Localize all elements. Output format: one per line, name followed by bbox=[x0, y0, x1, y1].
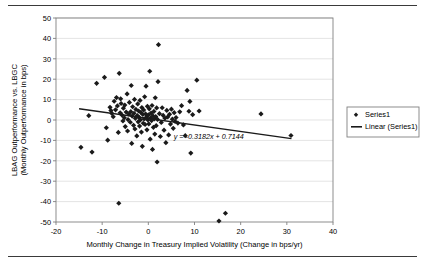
y-tick-label: 10 bbox=[43, 95, 51, 104]
x-tick-label: 30 bbox=[283, 227, 291, 236]
y-tick-label: -40 bbox=[40, 197, 51, 206]
chart-legend[interactable]: Series1Linear (Series1) bbox=[347, 107, 419, 137]
x-tick-label: -20 bbox=[51, 227, 62, 236]
x-tick-label: 0 bbox=[146, 227, 150, 236]
x-axis-tick-labels: -20-10010203040 bbox=[51, 227, 337, 236]
y-tick-label: -30 bbox=[40, 177, 51, 186]
scatter-chart: -50-40-30-20-1001020304050 -20-100102030… bbox=[0, 10, 425, 253]
x-axis-title-label: Monthly Change in Treasury Implied Volat… bbox=[86, 240, 303, 249]
y-tick-label: 50 bbox=[43, 14, 51, 23]
y-axis-tick-labels: -50-40-30-20-1001020304050 bbox=[40, 14, 51, 227]
y-tick-label: -50 bbox=[40, 218, 51, 227]
x-axis-title: Monthly Change in Treasury Implied Volat… bbox=[86, 240, 303, 249]
y-tick-label: -10 bbox=[40, 136, 51, 145]
figure-top-rule bbox=[8, 5, 417, 6]
y-axis-title-line1: LBAG Outperformance vs. LBGC bbox=[10, 64, 19, 176]
x-tick-label: 10 bbox=[190, 227, 198, 236]
chart-svg: -50-40-30-20-1001020304050 -20-100102030… bbox=[0, 10, 425, 253]
y-tick-label: 30 bbox=[43, 55, 51, 64]
figure-container: -50-40-30-20-1001020304050 -20-100102030… bbox=[0, 0, 425, 265]
legend-entry-label[interactable]: Series1 bbox=[365, 110, 390, 119]
y-tick-label: 40 bbox=[43, 34, 51, 43]
y-tick-label: 0 bbox=[47, 116, 51, 125]
x-tick-label: 40 bbox=[329, 227, 337, 236]
x-tick-label: 20 bbox=[237, 227, 245, 236]
y-axis-title-line2: (Monthly Outperformance in bps) bbox=[19, 64, 28, 175]
figure-bottom-rule bbox=[8, 256, 417, 257]
legend-entry-label[interactable]: Linear (Series1) bbox=[365, 122, 418, 131]
trendline-equation: y = -0.3182x + 0.7144 bbox=[173, 132, 244, 141]
y-tick-label: 20 bbox=[43, 75, 51, 84]
y-axis-title: LBAG Outperformance vs. LBGC (Monthly Ou… bbox=[10, 64, 28, 176]
x-tick-label: -10 bbox=[97, 227, 108, 236]
trendline-equation-label: y = -0.3182x + 0.7144 bbox=[173, 132, 244, 141]
y-tick-label: -20 bbox=[40, 157, 51, 166]
